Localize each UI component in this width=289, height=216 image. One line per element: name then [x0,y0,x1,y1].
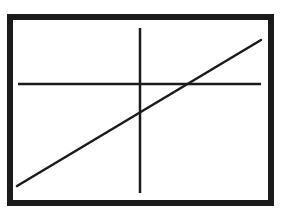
graph-diagram [0,0,289,216]
